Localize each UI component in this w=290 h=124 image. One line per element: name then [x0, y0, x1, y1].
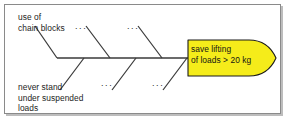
effect-arrow-line-1: save lifting: [191, 44, 231, 54]
cause-label-never-stand-under-suspended-loads: never stand under suspended loads: [18, 82, 83, 114]
upper-bone-2: [86, 26, 110, 58]
upper-bone-3: [138, 26, 162, 58]
cause-placeholder-top-1: ...: [75, 22, 87, 31]
cause-placeholder-bottom-1: ...: [101, 79, 113, 88]
cause-label-use-of-chain-blocks: use of chain blocks: [18, 12, 65, 33]
cause-placeholder-bottom-2: ...: [152, 79, 164, 88]
lower-bone-2: [112, 58, 136, 90]
fishbone-diagram-root: use of chain blocks never stand under su…: [0, 0, 290, 124]
effect-arrow-line-2: of loads > 20 kg: [191, 55, 251, 65]
effect-arrow-text: save liftingof loads > 20 kg: [191, 44, 251, 65]
lower-bone-3: [163, 58, 187, 90]
cause-placeholder-top-2: ...: [127, 22, 139, 31]
